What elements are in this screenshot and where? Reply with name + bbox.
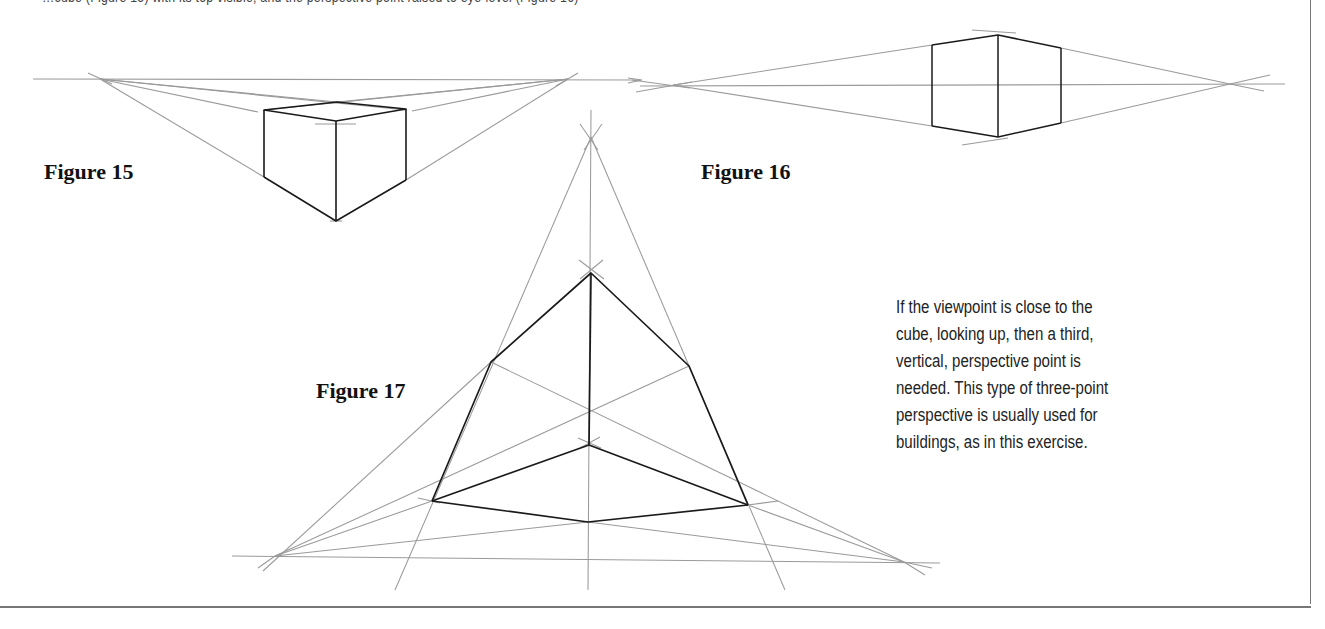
page-frame-bottom-border — [0, 606, 1311, 608]
figure-16-label: Figure 16 — [701, 159, 790, 185]
page-frame-right-border — [1310, 0, 1311, 604]
body-text-line: perspective is usually used for — [896, 402, 1154, 429]
figure-15-drawing — [33, 73, 642, 221]
body-text-line: cube, looking up, then a third, — [896, 321, 1154, 348]
figure-17-label: Figure 17 — [316, 378, 405, 404]
body-text-line: If the viewpoint is close to the — [896, 294, 1154, 321]
figure-15-label: Figure 15 — [44, 159, 133, 185]
figure-16-drawing — [632, 30, 1285, 145]
body-text-line: needed. This type of three-point — [896, 375, 1154, 402]
body-text-paragraph: If the viewpoint is close to the cube, l… — [896, 294, 1154, 456]
body-text-line: buildings, as in this exercise. — [896, 429, 1154, 456]
body-text-line: vertical, perspective point is — [896, 348, 1154, 375]
figure-17-drawing — [232, 110, 940, 590]
